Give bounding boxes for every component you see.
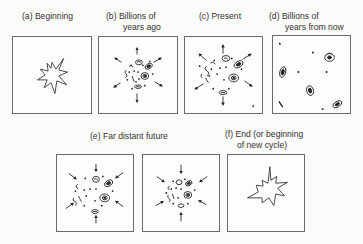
explosion-icon bbox=[13, 37, 91, 113]
label-c-text: (c) Present bbox=[199, 11, 241, 21]
label-d-line1: (d) Billions of bbox=[269, 11, 344, 22]
label-d-line2: years from now bbox=[269, 22, 344, 33]
label-f-line1: (f) End (or beginning bbox=[225, 129, 303, 140]
contracting-galaxies-dense-icon bbox=[143, 155, 219, 231]
label-b-line2: years ago bbox=[106, 22, 161, 33]
panel-f-end bbox=[227, 154, 305, 232]
label-b-line1: (b) Billions of bbox=[106, 11, 161, 22]
panel-c-present bbox=[184, 36, 263, 114]
label-a: (a) Beginning bbox=[22, 11, 73, 22]
panel-d-billions-years-from-now bbox=[272, 35, 351, 114]
label-f: (f) End (or beginning of new cycle) bbox=[225, 129, 303, 151]
label-c: (c) Present bbox=[199, 11, 241, 22]
label-f-line2: of new cycle) bbox=[225, 140, 303, 151]
panel-b-billions-years-ago bbox=[98, 36, 178, 114]
panel-e-far-distant-future-2 bbox=[142, 154, 220, 232]
expanding-galaxies-dense-icon bbox=[99, 37, 177, 113]
panel-e-far-distant-future-1 bbox=[56, 154, 134, 232]
scattered-galaxies-icon bbox=[273, 36, 350, 113]
explosion-icon bbox=[228, 155, 304, 231]
label-e: (e) Far distant future bbox=[90, 131, 168, 142]
label-e-text: (e) Far distant future bbox=[90, 131, 168, 141]
panel-a-beginning bbox=[12, 36, 92, 114]
label-b: (b) Billions of years ago bbox=[106, 11, 161, 33]
contracting-galaxies-icon bbox=[57, 155, 133, 231]
expanding-galaxies-icon bbox=[185, 37, 262, 113]
label-d: (d) Billions of years from now bbox=[269, 11, 344, 33]
label-a-text: (a) Beginning bbox=[22, 11, 73, 21]
